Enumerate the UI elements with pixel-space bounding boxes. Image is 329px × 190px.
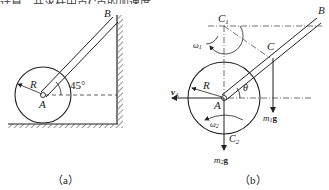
figure-b: B C1 C ω1 ω2 vA R A θ C2 m1g m2g （b） — [171, 4, 325, 186]
svg-text:ω2: ω2 — [210, 120, 219, 129]
figure-a: B R A 45° （a） — [8, 7, 123, 186]
angle-label: 45° — [70, 79, 85, 91]
svg-text:R: R — [202, 79, 210, 91]
svg-text:C2: C2 — [229, 133, 240, 146]
mechanics-diagram: B R A 45° （a） B C1 C ω1 — [0, 0, 329, 190]
svg-text:θ: θ — [243, 82, 248, 93]
svg-text:vA: vA — [171, 87, 179, 98]
svg-text:m2g: m2g — [214, 155, 229, 165]
label-R: R — [29, 78, 37, 90]
wall-hatch — [118, 15, 123, 128]
svg-text:C: C — [267, 40, 275, 52]
caption-a: （a） — [52, 174, 79, 186]
caption-b: （b） — [239, 174, 267, 186]
svg-text:C1: C1 — [218, 12, 229, 26]
svg-text:B: B — [318, 4, 325, 16]
label-A: A — [38, 98, 46, 110]
svg-text:A: A — [213, 99, 221, 111]
pin-A — [41, 93, 46, 98]
label-B: B — [104, 7, 111, 19]
svg-text:ω1: ω1 — [193, 41, 202, 50]
svg-text:m1g: m1g — [263, 113, 278, 123]
